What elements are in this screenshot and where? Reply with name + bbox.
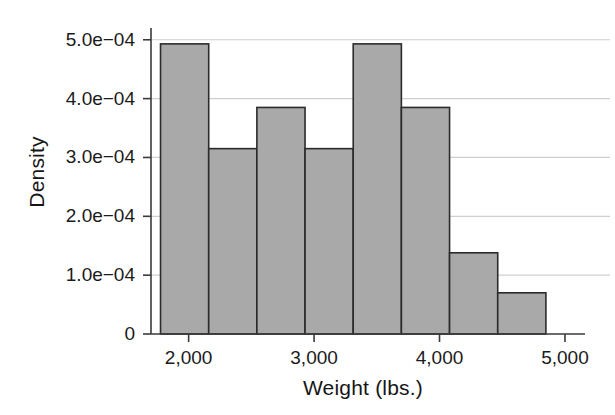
- histogram-figure: Density Weight (lbs.) 01.0e−042.0e−043.0…: [0, 0, 615, 415]
- x-tick-labels: 2,0003,0004,0005,000: [0, 0, 615, 415]
- x-tick-label: 2,000: [129, 348, 249, 367]
- x-tick-label: 3,000: [254, 348, 374, 367]
- x-tick-label: 5,000: [505, 348, 615, 367]
- x-tick-label: 4,000: [380, 348, 500, 367]
